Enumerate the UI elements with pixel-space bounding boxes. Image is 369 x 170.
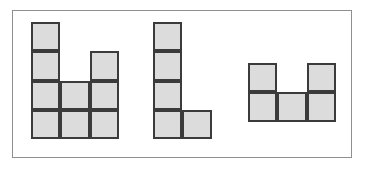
figure-frame	[12, 10, 352, 158]
poly-cell	[90, 110, 119, 139]
poly-cell	[277, 92, 306, 121]
poly-cell	[307, 63, 336, 92]
poly-cell	[248, 63, 277, 92]
poly-cell	[182, 110, 211, 139]
poly-cell	[31, 51, 60, 80]
poly-cell	[90, 51, 119, 80]
poly-cell	[153, 81, 182, 110]
poly-cell	[153, 22, 182, 51]
poly-cell	[307, 92, 336, 121]
poly-cell	[60, 81, 89, 110]
poly-cell	[90, 81, 119, 110]
poly-cell	[153, 110, 182, 139]
shape-middle	[153, 22, 212, 139]
poly-cell	[31, 110, 60, 139]
shape-right	[248, 63, 336, 122]
poly-cell	[153, 51, 182, 80]
figure-panel	[0, 0, 369, 170]
poly-cell	[60, 110, 89, 139]
shape-left	[31, 22, 119, 139]
poly-cell	[248, 92, 277, 121]
poly-cell	[31, 81, 60, 110]
poly-cell	[31, 22, 60, 51]
